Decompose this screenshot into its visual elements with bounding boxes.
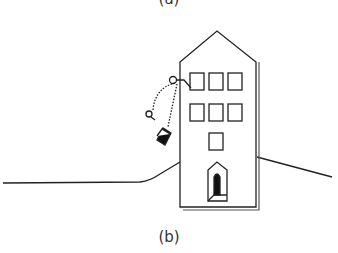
house-illustration	[0, 0, 338, 253]
figure-head	[170, 77, 177, 84]
ground-left	[3, 162, 180, 183]
dotted-line	[168, 84, 177, 127]
small-object-icon	[146, 111, 152, 117]
door-opening	[214, 174, 220, 195]
ground-right	[257, 157, 332, 177]
panel-label-b: (b)	[149, 228, 189, 246]
dotted-arc	[153, 83, 175, 110]
